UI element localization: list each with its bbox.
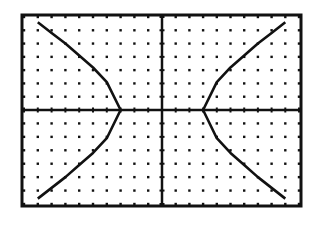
grid-dot — [119, 96, 121, 98]
grid-dot — [243, 69, 245, 71]
grid-dot — [188, 16, 190, 18]
grid-dot — [229, 189, 231, 191]
grid-dot — [92, 189, 94, 191]
grid-dot — [298, 203, 300, 205]
grid-dot — [92, 42, 94, 44]
grid-dot — [147, 149, 149, 151]
grid-dot — [229, 56, 231, 58]
grid-dot — [270, 203, 272, 205]
grid-dot — [298, 56, 300, 58]
grid-dot — [270, 163, 272, 165]
grid-dot — [64, 16, 66, 18]
grid-dot — [298, 16, 300, 18]
grid-dot — [284, 189, 286, 191]
grid-dot — [229, 163, 231, 165]
grid-dot — [92, 82, 94, 84]
grid-dot — [50, 42, 52, 44]
grid-dot — [106, 203, 108, 205]
grid-dot — [216, 29, 218, 31]
grid-dot — [284, 163, 286, 165]
grid-dot — [106, 149, 108, 151]
grid-dot — [175, 203, 177, 205]
grid-dot — [257, 29, 259, 31]
grid-dot — [270, 176, 272, 178]
grid-dot — [175, 163, 177, 165]
grid-dot — [202, 56, 204, 58]
grid-dot — [243, 149, 245, 151]
grid-dot — [37, 149, 39, 151]
grid-dot — [243, 82, 245, 84]
grid-dot — [50, 203, 52, 205]
grid-dot — [147, 189, 149, 191]
grid-dot — [106, 42, 108, 44]
grid-dot — [298, 82, 300, 84]
graph-screen — [0, 0, 322, 229]
grid-dot — [64, 189, 66, 191]
grid-dot — [284, 136, 286, 138]
grid-dot — [229, 96, 231, 98]
grid-dot — [147, 16, 149, 18]
grid-dot — [37, 122, 39, 124]
grid-dot — [229, 176, 231, 178]
grid-dot — [147, 122, 149, 124]
grid-dot — [23, 203, 25, 205]
grid-dot — [229, 203, 231, 205]
grid-dot — [257, 149, 259, 151]
grid-dot — [119, 82, 121, 84]
grid-dot — [257, 189, 259, 191]
grid-dot — [92, 163, 94, 165]
grid-dot — [270, 149, 272, 151]
grid-dot — [188, 42, 190, 44]
grid-dot — [78, 203, 80, 205]
grid-dot — [243, 136, 245, 138]
grid-dot — [257, 82, 259, 84]
grid-dot — [64, 96, 66, 98]
grid-dot — [92, 203, 94, 205]
grid-dot — [23, 16, 25, 18]
grid-dot — [270, 16, 272, 18]
grid-dot — [106, 163, 108, 165]
grid-dot — [119, 176, 121, 178]
grid-dot — [202, 69, 204, 71]
grid-dot — [23, 163, 25, 165]
grid-dot — [284, 16, 286, 18]
grid-dot — [270, 82, 272, 84]
grid-dot — [78, 16, 80, 18]
grid-dot — [298, 96, 300, 98]
grid-dot — [50, 16, 52, 18]
grid-dot — [175, 149, 177, 151]
grid-dot — [37, 189, 39, 191]
grid-dot — [188, 189, 190, 191]
grid-dot — [92, 16, 94, 18]
grid-dot — [175, 29, 177, 31]
grid-dot — [64, 82, 66, 84]
grid-dot — [257, 163, 259, 165]
grid-dot — [202, 42, 204, 44]
grid-dot — [133, 96, 135, 98]
grid-dot — [270, 42, 272, 44]
grid-dot — [119, 122, 121, 124]
grid-dot — [133, 189, 135, 191]
grid-dot — [298, 42, 300, 44]
grid-dot — [147, 69, 149, 71]
grid-dot — [202, 122, 204, 124]
grid-dot — [270, 136, 272, 138]
grid-dot — [23, 29, 25, 31]
grid-dot — [37, 69, 39, 71]
grid-dot — [133, 176, 135, 178]
grid-dot — [78, 189, 80, 191]
grid-dot — [216, 69, 218, 71]
grid-dot — [202, 16, 204, 18]
grid-dot — [23, 136, 25, 138]
grid-dot — [257, 122, 259, 124]
grid-dot — [243, 203, 245, 205]
grid-dot — [188, 203, 190, 205]
grid-dot — [92, 96, 94, 98]
grid-dot — [119, 149, 121, 151]
grid-dot — [37, 136, 39, 138]
grid-dot — [216, 149, 218, 151]
grid-dot — [284, 203, 286, 205]
grid-dot — [106, 189, 108, 191]
grid-dot — [298, 136, 300, 138]
grid-dot — [23, 56, 25, 58]
